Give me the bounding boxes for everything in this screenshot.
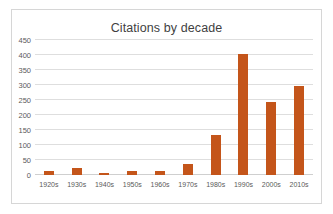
y-axis-tick-label: 150 xyxy=(18,126,31,134)
bar xyxy=(211,135,221,175)
y-axis-tick-label: 350 xyxy=(18,66,31,74)
y-axis-tick-label: 0 xyxy=(27,171,31,179)
bar-slot: 1920s xyxy=(35,40,63,175)
y-axis-tick-label: 200 xyxy=(18,111,31,119)
plot-area-wrapper: 050100150200250300350400450 1920s1930s19… xyxy=(35,40,313,175)
y-axis-tick-label: 400 xyxy=(18,51,31,59)
bars-layer: 1920s1930s1940s1950s1960s1970s1980s1990s… xyxy=(35,40,313,175)
bar-slot: 1970s xyxy=(174,40,202,175)
x-axis-tick-label: 1980s xyxy=(202,181,230,188)
bar-slot: 1990s xyxy=(230,40,258,175)
bar xyxy=(294,86,304,175)
x-axis-tick-label: 2000s xyxy=(257,181,285,188)
bar-slot: 2000s xyxy=(257,40,285,175)
bar xyxy=(72,168,82,175)
x-axis-tick-label: 1960s xyxy=(146,181,174,188)
x-axis-tick-label: 1970s xyxy=(174,181,202,188)
x-axis-tick-label: 1950s xyxy=(118,181,146,188)
bar xyxy=(155,171,165,175)
chart-title: Citations by decade xyxy=(12,21,321,35)
chart-container: Citations by decade 05010015020025030035… xyxy=(11,9,322,204)
x-axis-tick-label: 1990s xyxy=(230,181,258,188)
bar xyxy=(238,54,248,175)
bar xyxy=(266,102,276,176)
bar-slot: 1950s xyxy=(118,40,146,175)
y-axis-tick-label: 50 xyxy=(23,156,31,164)
y-axis-tick-label: 300 xyxy=(18,81,31,89)
bar-slot: 2010s xyxy=(285,40,313,175)
bar-slot: 1960s xyxy=(146,40,174,175)
bar-slot: 1940s xyxy=(91,40,119,175)
x-axis-tick-label: 2010s xyxy=(285,181,313,188)
bar xyxy=(99,173,109,175)
bar-slot: 1930s xyxy=(63,40,91,175)
x-axis-tick-label: 1940s xyxy=(91,181,119,188)
x-axis-tick-label: 1930s xyxy=(63,181,91,188)
y-axis-tick-label: 250 xyxy=(18,96,31,104)
y-axis-tick-label: 100 xyxy=(18,141,31,149)
bar-slot: 1980s xyxy=(202,40,230,175)
bar xyxy=(44,171,54,175)
x-axis-tick-label: 1920s xyxy=(35,181,63,188)
y-axis-tick-label: 450 xyxy=(18,36,31,44)
bar xyxy=(127,171,137,175)
plot-area: 050100150200250300350400450 1920s1930s19… xyxy=(35,40,313,175)
bar xyxy=(183,164,193,175)
